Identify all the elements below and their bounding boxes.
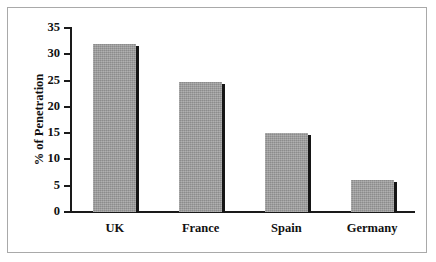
y-axis-title: % of Penetration: [32, 40, 47, 200]
y-tick-20: [64, 106, 71, 108]
y-tick-label-35: 35: [28, 21, 60, 34]
x-axis-label-uk: UK: [70, 221, 160, 236]
y-tick-label-25: 25: [28, 74, 60, 87]
x-axis-label-france: France: [156, 221, 246, 236]
y-tick-label-30: 30: [28, 47, 60, 60]
bar-spain: [265, 133, 308, 212]
bar-france: [179, 82, 222, 212]
bar-shadow-france: [222, 84, 225, 213]
y-tick-0: [64, 211, 71, 213]
bar-shadow-germany: [394, 182, 397, 213]
x-axis-label-germany: Germany: [327, 221, 417, 236]
y-tick-35: [64, 27, 71, 29]
bar-shadow-spain: [308, 135, 311, 213]
bar-shadow-uk: [136, 46, 139, 213]
y-tick-label-5: 5: [28, 179, 60, 192]
y-tick-30: [64, 53, 71, 55]
bar-germany: [351, 180, 394, 212]
y-tick-5: [64, 185, 71, 187]
bar-uk: [93, 44, 136, 212]
y-tick-label-20: 20: [28, 100, 60, 113]
y-tick-label-15: 15: [28, 126, 60, 139]
bar-chart: % of Penetration 05101520253035 UKFrance…: [0, 0, 436, 262]
y-tick-15: [64, 132, 71, 134]
y-tick-10: [64, 158, 71, 160]
y-tick-25: [64, 80, 71, 82]
x-axis-label-spain: Spain: [241, 221, 331, 236]
y-tick-label-0: 0: [28, 205, 60, 218]
y-tick-label-10: 10: [28, 152, 60, 165]
